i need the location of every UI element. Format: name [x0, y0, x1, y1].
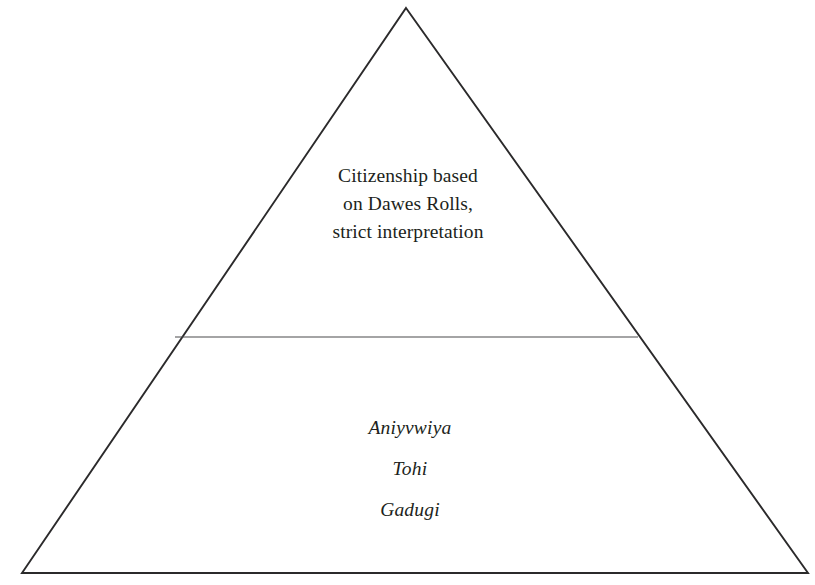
- pyramid-outline: [22, 8, 808, 573]
- pyramid-shape: [0, 0, 815, 585]
- pyramid-diagram: Citizenship based on Dawes Rolls, strict…: [0, 0, 815, 585]
